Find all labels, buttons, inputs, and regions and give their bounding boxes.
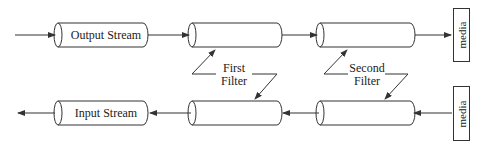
second-filter-top-cylinder — [316, 23, 415, 47]
media-bottom-label: media — [456, 100, 468, 127]
media-box-top: media — [453, 8, 470, 62]
second-filter-bottom-cylinder — [316, 101, 415, 125]
first-filter-label-line2: Filter — [214, 75, 254, 88]
output-stream-label: Output Stream — [66, 29, 146, 42]
input-stream-label: Input Stream — [66, 107, 146, 120]
first-filter-top-cylinder — [188, 23, 282, 47]
second-filter-label-line2: Filter — [344, 75, 390, 88]
media-box-bottom: media — [453, 86, 470, 141]
first-filter-bottom-cylinder — [188, 101, 282, 125]
media-top-label: media — [456, 22, 468, 49]
stream-filter-diagram: Output Stream Input Stream First Filter … — [0, 0, 486, 145]
